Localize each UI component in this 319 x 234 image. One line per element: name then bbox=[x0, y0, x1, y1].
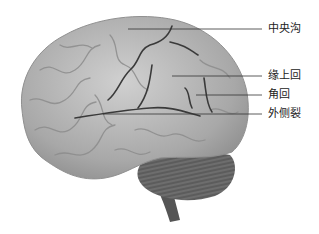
label-central-sulcus: 中央沟 bbox=[268, 23, 301, 35]
label-supramarginal-gyrus: 缘上回 bbox=[268, 70, 301, 82]
brain-diagram: 中央沟 缘上回 角回 外侧裂 bbox=[0, 0, 319, 234]
label-angular-gyrus: 角回 bbox=[268, 89, 290, 101]
label-lateral-fissure: 外侧裂 bbox=[268, 108, 301, 120]
